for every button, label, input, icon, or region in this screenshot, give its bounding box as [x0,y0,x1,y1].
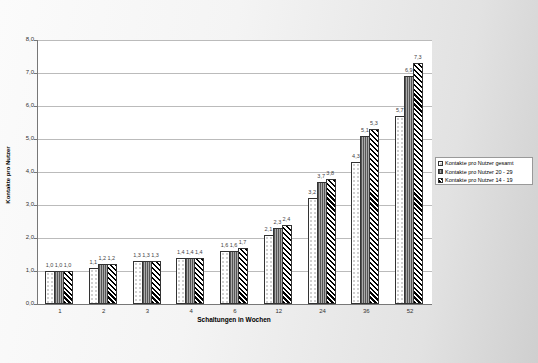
y-tick-mark [34,205,38,206]
x-tick-label: 24 [308,308,338,314]
pattern-diagonal-icon [438,178,443,183]
y-tick-mark [34,73,38,74]
value-label: 1,2 [103,255,119,261]
bar [238,248,248,304]
value-label: 1,7 [235,239,251,245]
value-label: 3,8 [322,170,338,176]
x-tick-label: 12 [264,308,294,314]
bar [413,63,423,304]
value-label: 2,4 [278,216,294,222]
y-tick-label: 7,0 [8,69,34,75]
y-tick-mark [34,139,38,140]
gridline [38,40,432,41]
value-label: 1,3 [147,252,163,258]
pattern-vertical-icon [438,169,443,174]
x-tick-label: 6 [220,308,250,314]
y-tick-label: 1,0 [8,267,34,273]
bar [369,129,379,304]
bar [151,261,161,304]
x-tick-label: 52 [395,308,425,314]
gridline [38,106,432,107]
value-label: 5,3 [366,120,382,126]
x-tick-label: 36 [351,308,381,314]
legend: Kontakte pro Nutzer gesamt Kontakte pro … [435,157,533,185]
y-tick-mark [34,238,38,239]
gridline [38,73,432,74]
x-tick-label: 3 [132,308,162,314]
bar [282,225,292,304]
y-axis-label: Kontakte pro Nutzer [5,135,11,215]
y-tick-label: 0,0 [8,300,34,306]
y-tick-label: 3,0 [8,201,34,207]
y-tick-mark [34,40,38,41]
y-tick-mark [34,271,38,272]
y-tick-label: 2,0 [8,234,34,240]
y-tick-mark [34,304,38,305]
bar [63,271,73,304]
legend-item-20-29: Kontakte pro Nutzer 20 - 29 [438,168,530,177]
y-tick-label: 5,0 [8,135,34,141]
plot-area: 0,01,02,03,04,05,06,07,08,011,01,01,021,… [37,40,432,305]
legend-item-14-19: Kontakte pro Nutzer 14 - 19 [438,176,530,185]
bar [326,179,336,304]
value-label: 1,0 [60,262,76,268]
bar [107,264,117,304]
x-tick-label: 1 [45,308,75,314]
y-tick-label: 8,0 [8,36,34,42]
y-tick-label: 4,0 [8,168,34,174]
y-tick-label: 6,0 [8,102,34,108]
value-label: 1,4 [191,249,207,255]
bar [194,258,204,304]
y-tick-mark [34,106,38,107]
x-axis-label: Schaltungen in Wochen [37,316,431,323]
y-tick-mark [34,172,38,173]
legend-item-gesamt: Kontakte pro Nutzer gesamt [438,159,530,168]
x-tick-label: 2 [89,308,119,314]
x-tick-label: 4 [176,308,206,314]
pattern-dots-icon [438,161,443,166]
value-label: 7,3 [410,54,426,60]
